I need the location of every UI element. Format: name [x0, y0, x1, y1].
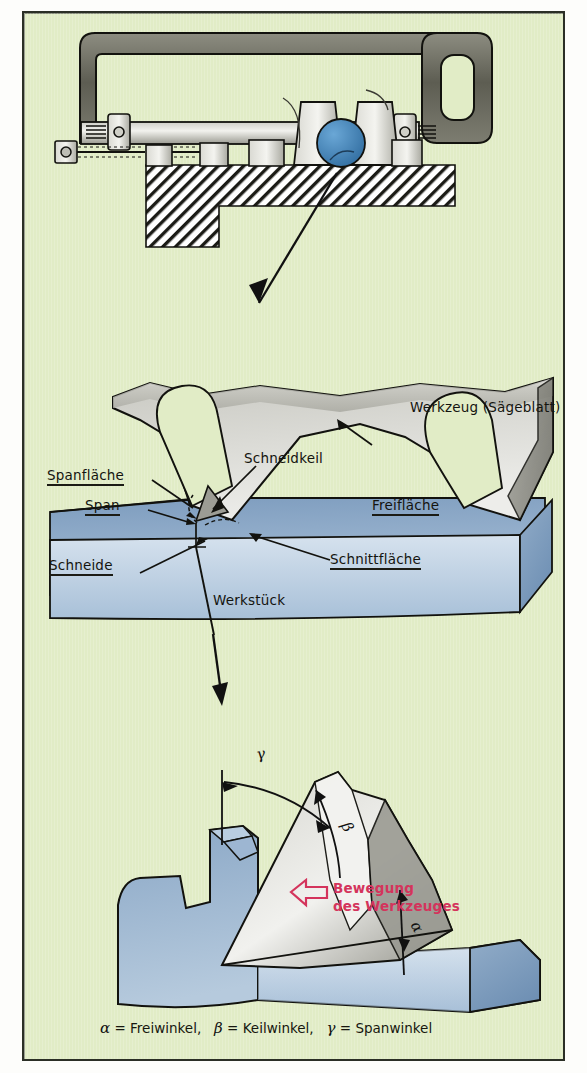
round-stock [317, 119, 365, 167]
caption-term-spanwinkel: Spanwinkel [355, 1020, 432, 1036]
label-schnittflaeche: Schnittfläche [330, 551, 421, 570]
motion-label-line1: Bewegung [333, 880, 414, 896]
panel-top-hacksaw [55, 33, 492, 303]
motion-label-line2: des Werkzeuges [333, 898, 460, 914]
caption-sep-2: = [227, 1020, 238, 1036]
label-werkzeug-saegeblatt: Werkzeug (Sägeblatt) [410, 399, 560, 415]
label-freiflaeche: Freifläche [372, 497, 439, 516]
technical-figure: Werkzeug (Sägeblatt) Spanfläche Span Sch… [0, 0, 587, 1073]
label-span: Span [85, 497, 120, 516]
caption-symbol-alpha: α [100, 1019, 110, 1037]
caption-sep-1: = [114, 1020, 125, 1036]
figure-caption: α = Freiwinkel, β = Keilwinkel, γ = Span… [100, 1019, 432, 1037]
caption-symbol-gamma: γ [327, 1019, 336, 1037]
panel-bottom-angles [118, 770, 540, 1012]
caption-term-keilwinkel: Keilwinkel, [243, 1020, 314, 1036]
figure-artwork [0, 0, 587, 1073]
label-werkstueck: Werkstück [213, 592, 285, 608]
zoom-arrow-middle [212, 634, 228, 706]
caption-term-freiwinkel: Freiwinkel, [130, 1020, 201, 1036]
caption-symbol-beta: β [214, 1019, 223, 1037]
label-spanflaeche: Spanfläche [47, 467, 124, 486]
label-schneide: Schneide [49, 557, 113, 576]
label-schneidkeil: Schneidkeil [244, 450, 323, 466]
caption-sep-3: = [340, 1020, 351, 1036]
panel-middle-cutting [50, 378, 553, 706]
